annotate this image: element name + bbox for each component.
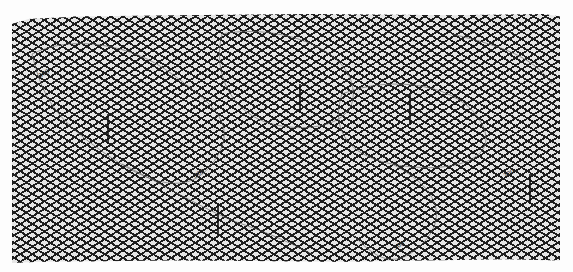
contour-line <box>339 84 486 168</box>
contour-line <box>219 31 353 127</box>
contour-lines-graphic: 300 300 300 300 <box>12 14 560 263</box>
contour-label: 300 <box>392 239 406 251</box>
contour-label: 300 <box>37 67 51 79</box>
contour-label: 300 <box>502 167 516 179</box>
contour-label: 300 <box>192 167 206 179</box>
contour-line <box>122 164 312 254</box>
contour-line <box>452 34 552 84</box>
contour-overlay: 300 300 300 300 <box>12 14 560 263</box>
wireframe-figure: 300 300 300 300 <box>0 0 573 272</box>
contour-line <box>32 44 224 184</box>
